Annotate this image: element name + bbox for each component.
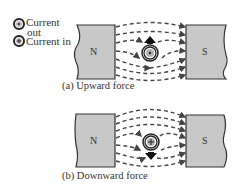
south-pole-label-a: S (202, 46, 208, 57)
caption-panel-a: (a) Upward force (62, 80, 134, 91)
north-pole-label-a: N (90, 46, 97, 57)
conductor-current-in-icon (143, 134, 159, 150)
legend-current-in-label: Current in (26, 36, 71, 46)
force-down-arrow-icon (145, 152, 157, 160)
motor-force-diagram: Current out Current in N S N S (a) Upwar… (0, 0, 236, 184)
legend-current-in-icon (14, 36, 24, 46)
legend-current-out-icon (14, 19, 24, 29)
north-pole-label-b: N (90, 135, 97, 146)
south-pole-label-b: S (202, 135, 208, 146)
legend-current-out-label: Current out (26, 17, 60, 37)
force-up-arrow-icon (144, 36, 156, 44)
caption-panel-b: (b) Downward force (62, 170, 148, 181)
conductor-current-out-icon (142, 45, 158, 61)
